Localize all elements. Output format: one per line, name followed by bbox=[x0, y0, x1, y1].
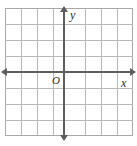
grid-line-horizontal bbox=[5, 24, 133, 25]
x-axis-label: x bbox=[121, 77, 126, 89]
grid-line-horizontal bbox=[5, 104, 133, 105]
grid-line-horizontal bbox=[5, 56, 133, 57]
grid-line-horizontal bbox=[5, 40, 133, 41]
x-axis-left-arrow-icon bbox=[1, 68, 7, 76]
y-axis-up-arrow-icon bbox=[60, 6, 68, 12]
coordinate-plane-figure: y x O bbox=[0, 0, 137, 146]
grid-line-horizontal bbox=[5, 8, 133, 9]
x-axis-line bbox=[4, 71, 132, 73]
grid-line-horizontal bbox=[5, 135, 133, 136]
y-axis-down-arrow-icon bbox=[60, 135, 68, 141]
origin-label: O bbox=[52, 75, 60, 86]
x-axis-right-arrow-icon bbox=[130, 68, 136, 76]
grid-line-horizontal bbox=[5, 88, 133, 89]
y-axis-line bbox=[63, 11, 65, 136]
y-axis-label: y bbox=[70, 9, 75, 21]
grid-line-horizontal bbox=[5, 120, 133, 121]
